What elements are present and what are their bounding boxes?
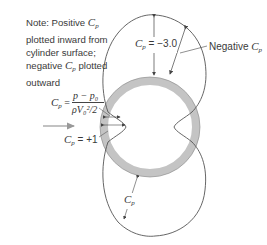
cylinder-ring: [104, 81, 196, 173]
note-text: Note: Positive Cp plotted inward from cy…: [26, 16, 126, 89]
fraction-bar: [72, 102, 104, 103]
negative-cp-label: Negative Cp: [209, 40, 262, 56]
cp-curve-right-bump: [174, 112, 192, 142]
cp-bottom-label: Cp: [124, 193, 135, 209]
formula-numerator: p − p₀: [73, 90, 98, 101]
formula-denominator: ρV₀²/2: [72, 104, 97, 115]
cp-stagnation-label: Cp = +1: [64, 133, 98, 149]
cp-curve-left-bump: [108, 112, 126, 142]
cp-min-label: Cp = −3.0: [135, 37, 177, 53]
